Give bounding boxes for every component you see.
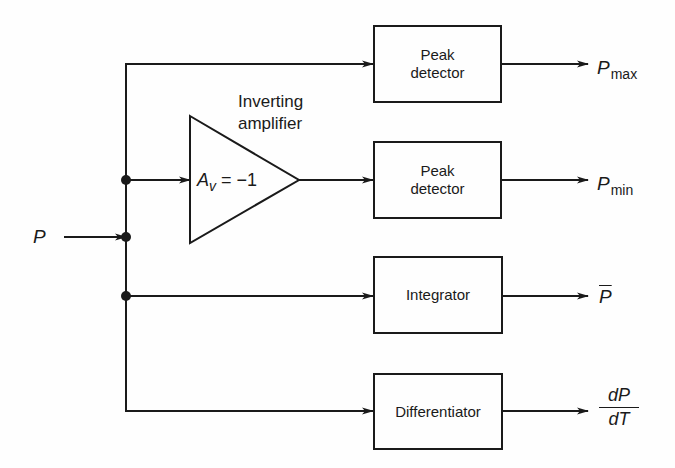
block-label-line1: Peak (410, 46, 464, 64)
block-label-line1: Peak (410, 162, 464, 180)
peak-detector-max-block: Peak detector (373, 25, 502, 103)
amplifier-title-line1: Inverting (238, 91, 303, 113)
block-label-line2: detector (410, 64, 464, 82)
amplifier-gain: Av = −1 (197, 170, 257, 196)
output-symbol: P (597, 173, 610, 194)
output-subscript: min (611, 182, 634, 198)
junction-dot (121, 291, 131, 301)
amplifier-title: Inverting amplifier (238, 91, 303, 135)
signal-processing-diagram: P Inverting amplifier Av = −1 Peak detec… (0, 0, 675, 468)
connection-lines (0, 0, 675, 468)
junction-dot (121, 232, 131, 242)
gain-value: = −1 (216, 170, 257, 190)
differentiator-block: Differentiator (373, 373, 503, 450)
block-label: Differentiator (395, 403, 481, 421)
output-pmin: Pmin (597, 174, 633, 200)
output-pbar: P (599, 287, 612, 307)
gain-symbol: A (197, 170, 209, 190)
gain-subscript: v (209, 178, 216, 194)
fraction-numerator: dP (599, 385, 639, 408)
block-label-line2: detector (410, 180, 464, 198)
junction-dot (121, 175, 131, 185)
output-symbol: P (597, 57, 610, 78)
output-pmax: Pmax (597, 58, 637, 84)
block-label: Integrator (406, 286, 470, 304)
peak-detector-min-block: Peak detector (373, 141, 502, 219)
output-dpdt: dP dT (599, 385, 639, 430)
input-label: P (33, 227, 46, 247)
output-subscript: max (611, 66, 637, 82)
integrator-block: Integrator (373, 256, 503, 334)
fraction-denominator: dT (599, 408, 639, 430)
amplifier-title-line2: amplifier (238, 113, 303, 135)
